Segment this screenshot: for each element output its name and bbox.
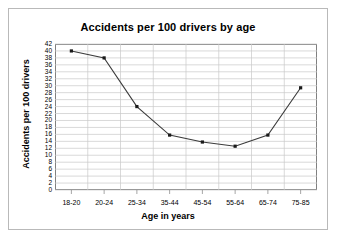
- data-point-marker: [266, 133, 269, 136]
- data-point-marker: [70, 49, 73, 52]
- y-tick-label: 24: [45, 103, 52, 110]
- y-tick-label: 2: [48, 180, 52, 187]
- data-point-marker: [135, 105, 138, 108]
- chart-title: Accidents per 100 drivers by age: [9, 21, 327, 33]
- y-tick-label: 4: [48, 173, 52, 180]
- chart-svg: [55, 44, 317, 190]
- y-tick-label: 36: [45, 62, 52, 69]
- y-tick-label: 14: [45, 138, 52, 145]
- y-tick-label: 0: [48, 187, 52, 194]
- x-tick-label: 35-44: [161, 199, 179, 206]
- x-tick-label: 55-64: [226, 199, 244, 206]
- y-tick-label: 8: [48, 159, 52, 166]
- data-point-marker: [299, 86, 302, 89]
- y-tick-label: 20: [45, 117, 52, 124]
- y-tick-label: 10: [45, 152, 52, 159]
- chart-frame: Accidents per 100 drivers by age Acciden…: [8, 8, 328, 230]
- y-axis-title: Accidents per 100 drivers: [21, 49, 31, 179]
- y-tick-label: 34: [45, 69, 52, 76]
- y-tick-label: 6: [48, 166, 52, 173]
- x-axis-title: Age in years: [9, 211, 327, 221]
- data-point-marker: [201, 140, 204, 143]
- y-tick-label: 32: [45, 76, 52, 83]
- x-gridlines: [71, 44, 300, 194]
- plot-wrapper: 024681012141618202224262830323436384042 …: [55, 44, 317, 190]
- x-tick-label: 18-20: [62, 199, 80, 206]
- x-tick-label: 20-24: [95, 199, 113, 206]
- x-tick-label: 75-85: [292, 199, 310, 206]
- y-tick-label: 12: [45, 145, 52, 152]
- x-tick-label: 65-74: [259, 199, 277, 206]
- data-point-marker: [103, 56, 106, 59]
- data-point-marker: [168, 133, 171, 136]
- y-tick-label: 30: [45, 82, 52, 89]
- y-tick-label: 26: [45, 96, 52, 103]
- y-tick-label: 40: [45, 48, 52, 55]
- x-tick-label: 45-54: [193, 199, 211, 206]
- x-tick-label: 25-34: [128, 199, 146, 206]
- y-tick-label: 42: [45, 41, 52, 48]
- y-tick-label: 38: [45, 55, 52, 62]
- y-tick-label: 16: [45, 131, 52, 138]
- y-tick-label: 22: [45, 110, 52, 117]
- y-tick-label: 18: [45, 124, 52, 131]
- data-point-marker: [234, 145, 237, 148]
- y-tick-label: 28: [45, 89, 52, 96]
